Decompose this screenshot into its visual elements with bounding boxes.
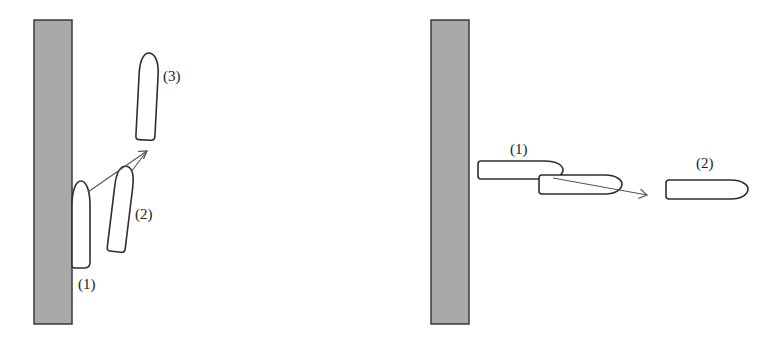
label-left-pos3: (3): [163, 68, 181, 85]
diagram-canvas: (1) (2) (3) (1) (2): [0, 0, 764, 350]
label-left-pos2: (2): [135, 206, 153, 223]
ship-left-position-3: [136, 53, 160, 141]
label-right-pos1: (1): [510, 141, 528, 158]
ship-left-position-2: [107, 165, 135, 253]
quay-wall-left: [34, 20, 72, 324]
movement-arrow-left-2: [131, 151, 147, 172]
right-panel: (1) (2): [431, 20, 748, 324]
label-left-pos1: (1): [78, 276, 96, 293]
left-panel: (1) (2) (3): [34, 20, 181, 324]
ship-left-position-1: [72, 181, 90, 268]
ship-right-position-2: [666, 180, 748, 199]
quay-wall-right: [431, 20, 469, 324]
ship-right-position-1b: [539, 175, 622, 194]
label-right-pos2: (2): [696, 155, 714, 172]
